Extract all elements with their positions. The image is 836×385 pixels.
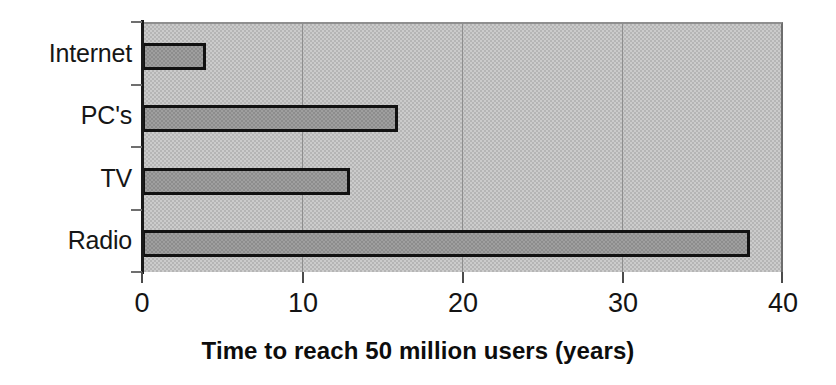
x-tick-20 xyxy=(462,272,464,283)
bar-tv[interactable] xyxy=(142,168,350,195)
x-label-20: 20 xyxy=(418,288,508,318)
x-label-30: 30 xyxy=(578,288,668,318)
x-tick-0 xyxy=(141,272,143,283)
x-label-10: 10 xyxy=(258,288,348,318)
x-label-40: 40 xyxy=(738,288,828,318)
y-tick-3 xyxy=(131,209,142,211)
x-axis-title: Time to reach 50 million users (years) xyxy=(0,337,836,365)
bar-radio[interactable] xyxy=(142,230,750,257)
x-label-0: 0 xyxy=(97,288,187,318)
y-tick-2 xyxy=(131,146,142,148)
plot-area xyxy=(142,22,783,272)
y-label-pcs: PC's xyxy=(4,103,132,128)
y-tick-0 xyxy=(131,21,142,23)
y-label-radio: Radio xyxy=(4,228,132,253)
bar-chart: Internet PC's TV Radio 0 10 20 30 40 Tim… xyxy=(0,0,836,385)
bar-internet[interactable] xyxy=(142,43,206,70)
bar-pcs[interactable] xyxy=(142,105,398,132)
x-tick-30 xyxy=(622,272,624,283)
y-label-tv: TV xyxy=(4,166,132,191)
y-axis-labels: Internet PC's TV Radio xyxy=(0,0,132,385)
y-label-internet: Internet xyxy=(4,41,132,66)
x-tick-10 xyxy=(302,272,304,283)
x-tick-40 xyxy=(781,272,783,283)
y-tick-1 xyxy=(131,84,142,86)
